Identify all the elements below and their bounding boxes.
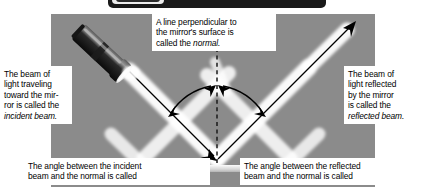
caption-reflected-line4: is called the <box>348 100 391 110</box>
incident-beam-arrow <box>125 67 214 156</box>
header-bar-inner <box>116 0 160 2</box>
caption-reflection-angle-line1: The angle between the reflected <box>244 161 361 171</box>
caption-reflected-line3: by the mirror <box>348 90 394 100</box>
caption-normal-line1: A line perpendicular to <box>156 17 237 27</box>
caption-incident-term: incident beam. <box>4 111 57 121</box>
flashlight-lens-glow <box>122 66 140 80</box>
figure-screenshot: A line perpendicular to the mirror's sur… <box>0 0 424 187</box>
caption-incident-line2: light traveling <box>4 79 52 89</box>
caption-incident-beam: The beam of light traveling toward the m… <box>0 66 72 124</box>
caption-incidence-angle-line2: beam and the normal is called <box>28 171 137 181</box>
caption-incident-line4: ror is called the <box>4 100 59 110</box>
caption-reflected-term: reflected beam. <box>348 111 404 121</box>
caption-normal: A line perpendicular to the mirror's sur… <box>152 14 276 51</box>
caption-incident-line3: toward the mir- <box>4 90 58 100</box>
caption-reflected-line2: light reflected <box>348 79 396 89</box>
caption-angle-of-reflection: The angle between the reflected beam and… <box>240 158 424 185</box>
caption-reflection-angle-line2: beam and the normal is called <box>244 171 353 181</box>
caption-incident-line1: The beam of <box>4 69 50 79</box>
caption-normal-line3: called the <box>156 38 193 48</box>
caption-normal-line2: the mirror's surface is <box>156 27 233 37</box>
caption-reflected-beam: The beam of light reflected by the mirro… <box>344 66 424 124</box>
caption-normal-term: normal. <box>193 38 220 48</box>
caption-reflected-line1: The beam of <box>348 69 394 79</box>
caption-angle-of-incidence: The angle between the incident beam and … <box>24 158 210 185</box>
caption-incidence-angle-line1: The angle between the incident <box>28 161 141 171</box>
